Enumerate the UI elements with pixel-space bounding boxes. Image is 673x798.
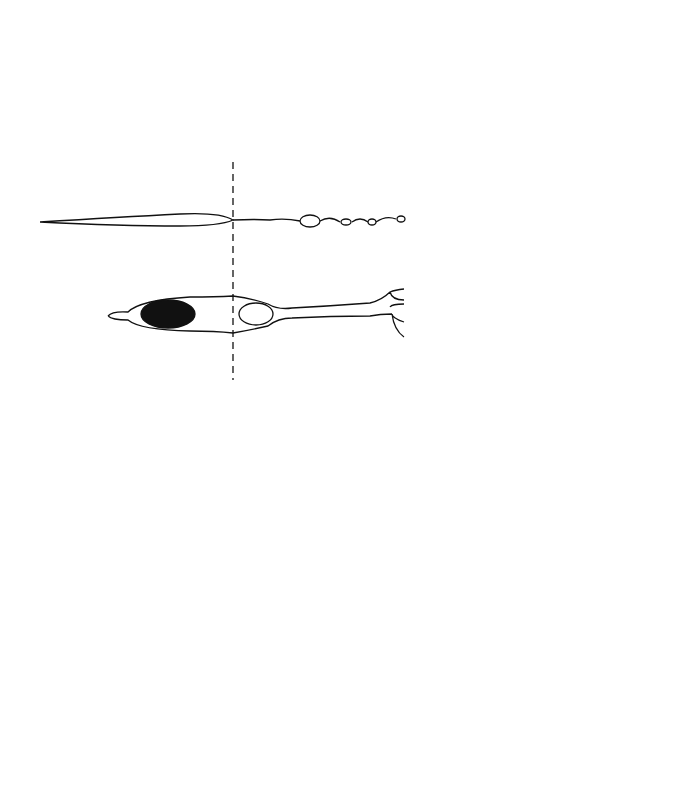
cell-schematic [40, 162, 405, 380]
fiber-axon [233, 219, 300, 221]
varicosity [300, 215, 320, 227]
varicosity [368, 219, 376, 225]
varicosity [341, 219, 351, 225]
nucleus-filled [141, 300, 195, 328]
varicosity [397, 216, 405, 222]
fiber-axon-distal [320, 218, 396, 222]
retina-illustration [0, 0, 673, 798]
nucleus-open [239, 303, 273, 325]
fusiform-fiber [40, 214, 233, 226]
retina-figure [0, 0, 673, 798]
